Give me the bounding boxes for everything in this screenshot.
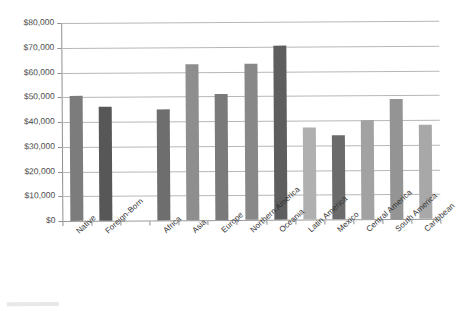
- x-axis-tick-mark: [121, 222, 122, 226]
- scan-artifact: [7, 302, 59, 306]
- bar: [157, 109, 171, 220]
- bar: [215, 94, 229, 220]
- y-axis-tick-mark: [58, 97, 62, 98]
- y-axis-tick-label: $40,000: [24, 117, 55, 126]
- x-axis-tick-mark: [411, 220, 412, 224]
- x-axis-tick-mark: [440, 220, 441, 224]
- y-axis-tick-label: $70,000: [24, 43, 55, 52]
- y-axis-tick-mark: [57, 72, 61, 73]
- y-axis-tick-label: $50,000: [24, 92, 55, 101]
- x-axis-tick-mark: [353, 220, 354, 224]
- x-axis-tick-mark: [208, 221, 209, 225]
- bar: [273, 45, 287, 220]
- bar: [332, 135, 346, 219]
- bar: [419, 125, 433, 219]
- y-axis-tick-mark: [57, 23, 61, 24]
- bar: [244, 64, 258, 220]
- bar: [99, 107, 113, 221]
- x-axis-tick-mark: [382, 220, 383, 224]
- y-axis-tick-label: $0: [46, 216, 56, 225]
- bar: [390, 99, 404, 219]
- bar-chart: $0$10,000$20,000$30,000$40,000$50,000$60…: [0, 0, 448, 311]
- x-axis-tick-mark: [91, 222, 92, 226]
- x-axis-tick-mark: [150, 221, 151, 225]
- y-axis-tick-label: $80,000: [23, 18, 54, 27]
- bars: [61, 21, 440, 221]
- y-axis-tick-mark: [58, 122, 62, 123]
- x-axis-tick-mark: [266, 221, 267, 225]
- x-axis-tick-mark: [295, 221, 296, 225]
- bar: [186, 64, 200, 220]
- x-axis-tick-mark: [62, 222, 63, 226]
- y-axis-tick-label: $60,000: [24, 68, 55, 77]
- x-axis-tick-mark: [237, 221, 238, 225]
- y-axis-tick-mark: [58, 196, 62, 197]
- bar: [361, 120, 375, 219]
- y-axis-tick-labels: $0$10,000$20,000$30,000$40,000$50,000$60…: [0, 23, 55, 221]
- plot-area: [61, 21, 440, 221]
- y-axis-tick-label: $20,000: [24, 167, 55, 176]
- bar: [70, 96, 84, 221]
- y-axis-tick-mark: [58, 147, 62, 148]
- y-axis-tick-label: $30,000: [24, 142, 55, 151]
- y-axis-tick-mark: [58, 171, 62, 172]
- y-axis-tick-label: $10,000: [24, 191, 55, 200]
- x-axis-tick-mark: [179, 221, 180, 225]
- x-axis-tick-mark: [324, 220, 325, 224]
- y-axis-tick-mark: [57, 48, 61, 49]
- bar: [302, 128, 316, 220]
